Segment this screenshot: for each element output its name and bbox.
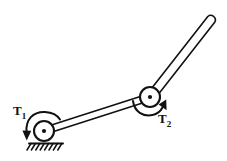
torque-label-1-symbol: T xyxy=(13,103,22,118)
ground-support xyxy=(27,144,63,151)
upper-link xyxy=(146,15,215,101)
mechanism-diagram: T1 T2 xyxy=(0,0,227,161)
torque-label-1-subscript: 1 xyxy=(22,111,27,121)
mechanism-svg xyxy=(0,0,227,161)
torque-arrow-1-head xyxy=(22,130,31,140)
torque-label-2: T2 xyxy=(158,112,171,129)
ground-hatch-marks xyxy=(27,144,62,151)
torque-label-1: T1 xyxy=(13,104,26,121)
grounded-pivot-joint xyxy=(34,121,54,141)
torque-label-2-subscript: 2 xyxy=(167,119,172,129)
torque-label-2-symbol: T xyxy=(158,111,167,126)
lower-link xyxy=(41,94,152,135)
intermediate-joint xyxy=(140,87,160,107)
